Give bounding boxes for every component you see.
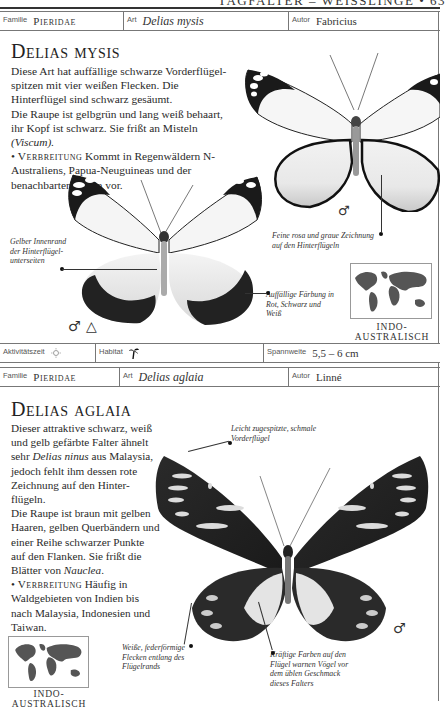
species-cell: Art Delias mysis [124,12,289,30]
distribution-label: Verbreitung [18,578,82,590]
entry1-footer-bar: Aktivitätszeit Habitat Spannweite 5,5 – … [0,343,440,363]
species-cell: Art Delias aglaia [120,368,289,386]
author-label: Autor [292,371,310,380]
top-rule [0,7,440,9]
species-value: Delias mysis [143,14,204,29]
entry1-header-bar: Familie Pieridae Art Delias mysis Autor … [0,11,440,31]
wingspan-value: 5,5 – 6 cm [312,347,358,359]
family-cell: Familie Pieridae [0,368,120,386]
entry2-para2-italic: Nauclea [64,564,101,576]
bullet: • [11,578,15,590]
callout-dot [271,651,275,655]
family-value: Pieridae [33,15,76,27]
male-symbol-icon: ♂ [393,620,406,636]
activity-label: Aktivitätszeit [3,347,45,356]
species-label: Art [127,15,137,24]
distribution-label: Verbreitung [18,150,82,162]
author-cell: Autor Linné [289,368,440,386]
world-map-icon [351,264,431,318]
author-value: Linné [316,371,342,383]
callout-yellow-inner-edge: Gelber Innenrand der Hinterflügel-unters… [10,237,70,266]
entry1-title: Delias mysis [11,40,120,63]
callout-leader-line [245,293,267,294]
entry2-header-bar: Familie Pieridae Art Delias aglaia Autor… [0,367,440,387]
entry2-frame-right [438,367,439,701]
species-value: Delias aglaia [139,370,204,385]
family-value: Pieridae [33,371,76,383]
male-symbol-icon: ♂ [338,203,350,218]
entry2-distribution: • Verbreitung Häufig in Waldgebieten von… [11,577,161,634]
entry1-para2: Die Raupe ist gelbgrün und lang weiß beh… [11,107,236,150]
author-value: Fabricius [316,15,357,27]
entry2-body: Dieser attraktive schwarz, weiß und gelb… [11,421,161,634]
entry2-para2-end: . [101,564,104,576]
distribution-map [350,263,432,319]
butterfly-illustration-lower [65,165,265,328]
wingspan-label: Spannweite [267,347,306,356]
entry1-para1: Diese Art hat auffällige schwarze Vorder… [11,64,236,107]
family-label: Familie [3,371,27,380]
callout-warning-colors: Kräftige Farben auf den Flügel warnen Vö… [270,650,360,688]
bullet: • [11,150,15,162]
family-cell: Familie Pieridae [0,12,124,30]
entry2-para2: Die Raupe ist braun mit gelben Haaren, g… [11,506,161,577]
map-caption: INDO-AUSTRALISCH [350,322,434,342]
butterfly-illustration-upper [240,52,440,212]
sun-icon [51,348,61,358]
map-caption: INDO-AUSTRALISCH [6,689,92,709]
world-map-icon [9,637,88,687]
author-cell: Autor Fabricius [289,12,440,30]
callout-leader-line [62,269,157,270]
author-label: Autor [292,15,310,24]
habitat-cell: Habitat [96,344,264,362]
entry2-para1-italic: Delias ninus [32,450,88,462]
entry2-para1: Dieser attraktive schwarz, weiß und gelb… [11,421,161,506]
male-symbol-icon: ♂ [68,318,81,334]
wingspan-cell: Spannweite 5,5 – 6 cm [264,344,440,362]
species-label: Art [123,371,133,380]
habitat-label: Habitat [99,347,123,356]
butterfly-illustration-aglaia [152,448,432,648]
entry1-para2-italic: (Viscum). [11,136,54,148]
entry2-title: Delias aglaia [11,398,132,421]
family-label: Familie [3,15,27,24]
distribution-map [8,636,89,688]
palm-tree-icon [129,347,139,359]
callout-narrow-forewings: Leicht zugespitzte, schmale Vorderflügel [231,424,321,443]
activity-cell: Aktivitätszeit [0,344,96,362]
callout-dot [189,644,193,648]
entry1-para2-text: Die Raupe ist gelbgrün und lang weiß beh… [11,108,223,134]
callout-striking-coloring: Auffällige Färbung in Rot, Schwarz und W… [266,290,336,319]
triangle-symbol-icon: △ [86,318,97,334]
callout-white-spots: Weiße, federförmige Flecken entlang des … [122,643,192,672]
callout-leader-line [381,175,382,233]
callout-fine-markings: Feine rosa und graue Zeichnung auf den H… [272,231,382,250]
